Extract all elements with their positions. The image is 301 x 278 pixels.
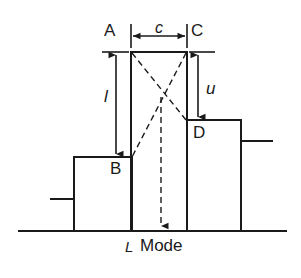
label-class-width: c	[155, 20, 163, 36]
label-lower-difference: l	[104, 88, 108, 105]
label-upper-difference: u	[206, 80, 215, 97]
label-corner-d: D	[193, 124, 205, 141]
construction-diagonal-cb	[132, 53, 186, 157]
label-corner-b: B	[110, 160, 121, 177]
construction-diagonal-ad	[132, 53, 186, 120]
label-mode: Mode	[140, 237, 183, 254]
label-lower-limit: L	[125, 239, 133, 254]
label-corner-a: A	[104, 22, 115, 39]
bar-pre-modal	[74, 157, 132, 231]
label-corner-c: C	[191, 22, 203, 39]
mode-histogram-figure: A c C l u B D L Mode	[0, 0, 301, 278]
